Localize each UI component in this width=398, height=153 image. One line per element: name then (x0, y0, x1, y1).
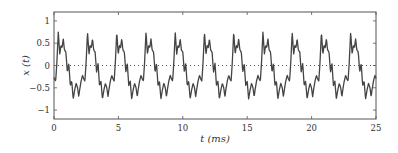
y-tick-label: 0 (45, 61, 50, 71)
x-tick-label: 0 (51, 123, 56, 133)
y-tick-label: −1 (37, 105, 50, 115)
x-tick-label: 25 (371, 123, 382, 133)
y-tick-label: −0.5 (29, 83, 50, 93)
signal-chart: 10.50−0.5−1 0510152025 t (ms) x (t) (0, 0, 398, 153)
x-tick-label: 20 (306, 123, 317, 133)
y-tick-label: 1 (45, 16, 50, 26)
y-tick-label: 0.5 (36, 38, 50, 48)
x-tick-label: 10 (177, 123, 188, 133)
x-tick-label: 5 (116, 123, 121, 133)
y-axis-label: x (t) (20, 55, 31, 76)
x-axis-label: t (ms) (200, 133, 230, 144)
x-tick-label: 15 (242, 123, 253, 133)
